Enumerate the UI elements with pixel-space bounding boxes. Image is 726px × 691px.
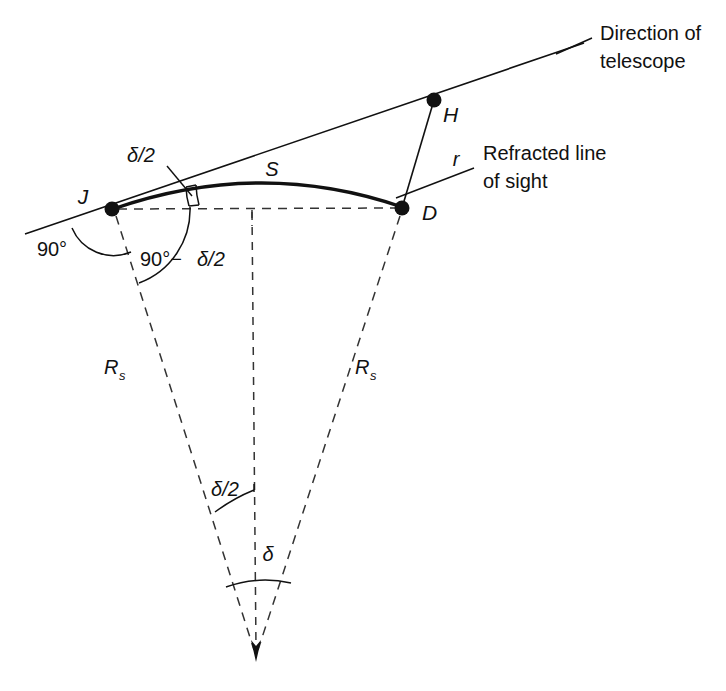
label-radius-right-sub: s (370, 368, 377, 383)
angle-arc-90-minus-half-delta (139, 207, 190, 283)
label-angle-half-delta-bottom: δ/2 (211, 478, 239, 500)
leader-refracted-line-of-sight (396, 168, 474, 198)
segment-dh (402, 100, 434, 208)
label-refracted-line-of-sight: Refracted line of sight (483, 142, 606, 192)
label-angle-90-minus-half-delta: 90°− δ/2 (140, 248, 225, 270)
label-angle-90-minus-half-delta-value: δ/2 (197, 248, 225, 270)
center-vertical-dashed (252, 212, 256, 648)
label-arc-length-s: S (265, 158, 279, 180)
label-direction-of-telescope-line1: Direction of (600, 22, 702, 44)
label-radius-left: R s (104, 356, 126, 383)
diagram-canvas: J D H S r 90° 90°− δ/2 δ/2 δ/2 δ R s R s (0, 0, 726, 691)
radius-right-dashed (258, 216, 400, 650)
point-j-dot (105, 202, 120, 217)
point-label-j: J (77, 185, 89, 208)
label-direction-of-telescope: Direction of telescope (600, 22, 702, 72)
label-radius-left-r: R (104, 356, 118, 378)
label-angle-90: 90° (37, 238, 67, 260)
label-radius-left-sub: s (119, 368, 126, 383)
label-direction-of-telescope-line2: telescope (600, 50, 686, 72)
angle-arc-90 (72, 228, 131, 256)
refracted-ray-curve (113, 183, 402, 209)
label-radius-right-r: R (355, 356, 369, 378)
label-angle-half-delta-top: δ/2 (127, 144, 155, 166)
label-refracted-line-of-sight-line1: Refracted line (483, 142, 606, 164)
angle-arc-delta (226, 580, 291, 587)
point-label-h: H (443, 103, 459, 126)
point-h-dot (427, 93, 442, 108)
angle-half-delta-cap-bottom (189, 205, 199, 206)
label-refraction-angle-r: r (453, 148, 461, 170)
label-angle-delta: δ (262, 543, 274, 565)
point-label-d: D (422, 201, 437, 224)
refraction-diagram: J D H S r 90° 90°− δ/2 δ/2 δ/2 δ R s R s (0, 0, 726, 691)
apex-arrowhead (251, 640, 261, 662)
label-radius-right: R s (355, 356, 377, 383)
point-d-dot (395, 201, 410, 216)
leader-direction-of-telescope (556, 38, 592, 54)
chord-jd-dashed (118, 208, 398, 209)
label-angle-90-minus-prefix: 90°− (140, 248, 182, 270)
label-refracted-line-of-sight-line2: of sight (483, 170, 548, 192)
